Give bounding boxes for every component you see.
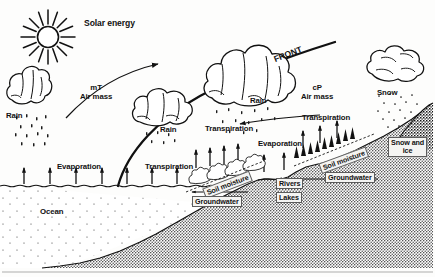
transpiration-label-center: Transpiration [205,125,253,133]
cloud-icon-left [7,67,52,104]
cp-air-mass-label: cP Air mass [301,84,333,102]
cp-air-mass-line2: Air mass [301,93,333,102]
transpiration-label-left: Transpiration [145,163,193,171]
snow-label: Snow [377,89,397,97]
rain-label-left: Rain [6,112,23,120]
evaporation-arrows-land [264,153,284,172]
mt-air-mass-line2: Air mass [80,93,112,102]
rain-label-center: Rain [160,126,177,134]
snow-and-ice-line2: ice [391,147,424,155]
groundwater-label-right: Groundwater [325,172,375,183]
hydrologic-cycle-diagram: Solar energy FRONT mT Air mass cP Air ma… [0,0,435,277]
sun-icon [21,10,75,64]
evaporation-label-land: Evaporation [258,140,302,148]
diagram-canvas [0,0,435,277]
snow-and-ice-label: Snow and ice [388,137,427,157]
lakes-label: Lakes [276,192,302,203]
transpiration-label-right: Transpiration [302,114,350,122]
rivers-label: Rivers [276,178,303,189]
solar-energy-label: Solar energy [84,19,135,28]
cloud-icon-center-low [133,89,193,126]
ocean-label: Ocean [40,208,63,216]
rain-label-right: Rain [250,97,267,105]
ocean-surface-line [0,185,212,187]
groundwater-label-left: Groundwater [192,196,242,207]
evaporation-label-ocean: Evaporation [57,163,101,171]
cloud-icon-right [367,46,424,82]
mt-air-mass-label: mT Air mass [80,84,112,102]
